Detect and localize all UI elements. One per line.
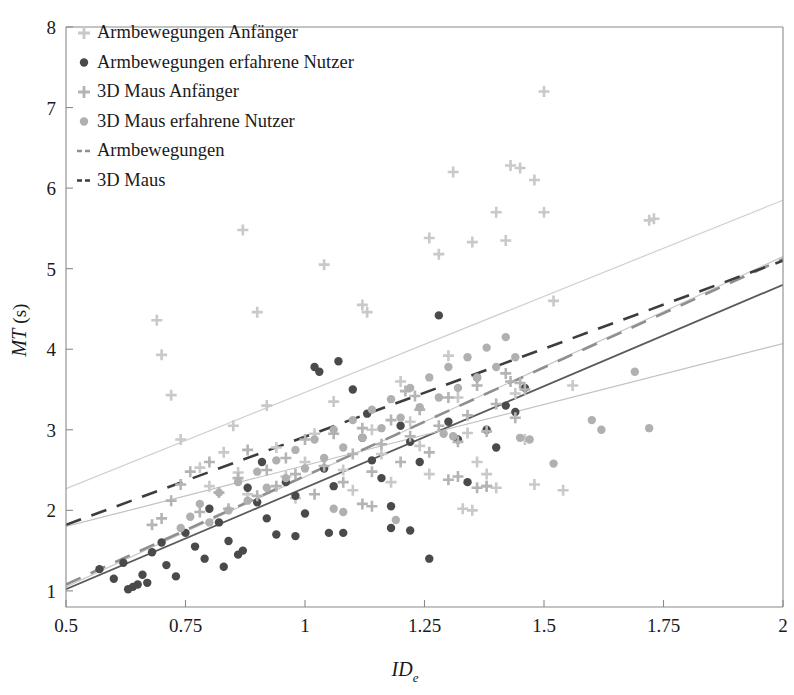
data-point-plus [194,462,205,473]
data-point-plus [347,485,358,496]
data-point-dot [444,363,452,371]
data-point-plus [338,477,349,488]
data-point-dot [631,368,639,376]
data-point-dot [588,416,596,424]
data-point-dot [473,373,481,381]
chart-canvas: 0.50.7511.251.51.75212345678 Armbewegung… [0,0,794,695]
data-point-dot [444,418,452,426]
trendline [66,259,783,584]
data-point-dot [263,514,271,522]
data-point-dot [119,558,127,566]
data-point-plus [386,477,397,488]
data-point-dot [215,518,223,526]
data-point-dot [502,333,510,341]
data-point-dot [301,464,309,472]
data-point-plus [462,428,473,439]
data-point-plus [567,380,578,391]
data-point-dot [124,585,132,593]
data-point-dot [177,524,185,532]
legend-marker-dot [80,117,88,125]
legend-item: 3D Maus Anfänger [78,81,239,101]
data-point-dot [387,524,395,532]
legend: Armbewegungen AnfängerArmbewegungen erfa… [77,22,354,190]
legend-label: Armbewegungen [97,140,224,160]
data-point-plus [510,412,521,423]
data-point-plus [280,452,291,463]
data-point-dot [463,478,471,486]
data-point-dot [525,435,533,443]
data-point-dot [425,554,433,562]
data-point-dot [329,482,337,490]
legend-label: 3D Maus Anfänger [97,81,239,101]
x-tick-label: 1.5 [532,615,556,636]
y-axis-title: MT(s) [8,304,31,358]
data-point-dot [263,484,271,492]
data-point-dot [220,563,228,571]
trendline [66,285,783,590]
data-point-dot [349,416,357,424]
data-point-plus [147,519,158,530]
data-point-plus [424,447,435,458]
data-point-plus [166,390,177,401]
data-point-dot [186,513,194,521]
data-point-plus [271,442,282,453]
data-point-plus [505,160,516,171]
data-point-plus [529,479,540,490]
data-point-plus [151,315,162,326]
scatter-plot-figure: 0.50.7511.251.51.75212345678 Armbewegung… [0,0,794,695]
data-point-plus [443,350,454,361]
data-point-dot [368,405,376,413]
data-point-dot [310,435,318,443]
data-point-plus [472,380,483,391]
data-point-dot [157,538,165,546]
data-point-plus [443,392,454,403]
x-tick-label: 0.75 [169,615,202,636]
data-point-plus [467,505,478,516]
data-point-plus [156,513,167,524]
y-tick-label: 2 [47,500,57,521]
data-point-plus [166,495,177,506]
data-point-plus [328,396,339,407]
data-point-plus [204,457,215,468]
data-point-dot [396,422,404,430]
data-point-plus [424,469,435,480]
data-point-dot [516,434,524,442]
x-tick-label: 1.75 [647,615,680,636]
data-point-plus [491,482,502,493]
data-point-dot [339,529,347,537]
data-point-dot [339,508,347,516]
y-axis-title-unit: (s) [9,304,31,324]
data-point-plus [309,489,320,500]
data-point-plus [347,448,358,459]
legend-label: Armbewegungen Anfänger [97,22,298,42]
data-point-plus [539,86,550,97]
data-point-dot [377,424,385,432]
data-point-dot [282,474,290,482]
data-point-dot [492,443,500,451]
data-point-dot [329,505,337,513]
data-point-plus [175,479,186,490]
data-point-plus [414,440,425,451]
legend-marker-dot [80,58,88,66]
trendline [66,261,783,525]
data-point-dot [482,343,490,351]
legend-label: 3D Maus erfahrene Nutzer [97,111,295,131]
x-axis-title: IDe [391,658,419,685]
data-point-plus [395,376,406,387]
data-point-dot [439,430,447,438]
data-point-dot [301,509,309,517]
data-point-plus [424,233,435,244]
data-point-dot [339,443,347,451]
x-tick-label: 0.5 [54,615,78,636]
data-point-plus [472,457,483,468]
data-point-plus [467,237,478,248]
data-point-plus [366,466,377,477]
data-point-plus [452,392,463,403]
data-point-plus [481,469,492,480]
data-point-plus [204,481,215,492]
data-point-plus [481,426,492,437]
data-point-dot [358,434,366,442]
data-point-dot [392,516,400,524]
data-point-dot [349,385,357,393]
data-point-dot [162,561,170,569]
